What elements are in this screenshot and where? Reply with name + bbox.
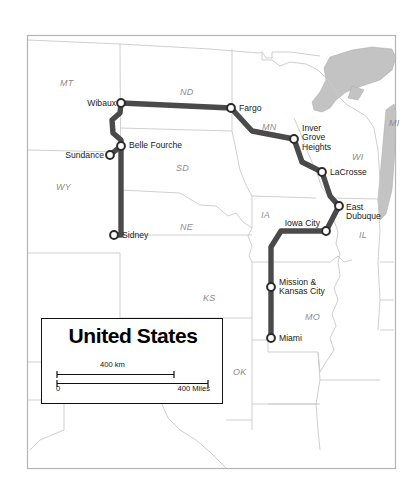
scale-km-label: 400 km xyxy=(100,360,125,369)
route-node-miami[interactable] xyxy=(267,334,275,342)
route-node-east-dubuque[interactable] xyxy=(335,202,343,210)
map-canvas xyxy=(0,0,417,502)
route-node-sundance[interactable] xyxy=(106,151,114,159)
route-node-mission-kansas-city[interactable] xyxy=(267,283,275,291)
scale-miles-label: 400 Miles xyxy=(178,384,211,393)
route-node-iowa-city[interactable] xyxy=(322,227,330,235)
route-node-fargo[interactable] xyxy=(227,104,235,112)
route-node-inver-grove-heights[interactable] xyxy=(290,135,298,143)
scale-bar-graphic xyxy=(56,360,210,400)
route-node-belle-fourche[interactable] xyxy=(117,142,125,150)
map-legend: United States 400 km 0 400 Miles xyxy=(41,318,223,404)
route-node-wibaux[interactable] xyxy=(117,99,125,107)
map-figure: MTNDMNSDWYNEIAWIILMIMOKSOK WibauxFargoIn… xyxy=(0,0,417,502)
route-node-sidney[interactable] xyxy=(110,231,118,239)
scale-bar: 400 km 0 400 Miles xyxy=(56,360,210,400)
route-node-lacrosse[interactable] xyxy=(318,168,326,176)
scale-zero-label: 0 xyxy=(56,384,60,393)
legend-title: United States xyxy=(42,324,224,348)
